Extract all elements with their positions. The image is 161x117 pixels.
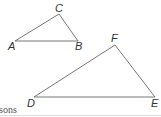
triangle-def (34, 45, 155, 97)
triangle-abc (15, 14, 78, 41)
similar-triangles-diagram: A B C D E F sons (0, 0, 161, 117)
footer-text: sons (0, 104, 17, 115)
vertex-label-b: B (75, 40, 82, 52)
vertex-label-d: D (27, 97, 35, 109)
vertex-label-a: A (7, 40, 15, 52)
vertex-label-e: E (151, 97, 159, 109)
vertex-label-f: F (111, 32, 119, 44)
vertex-label-c: C (55, 2, 63, 14)
